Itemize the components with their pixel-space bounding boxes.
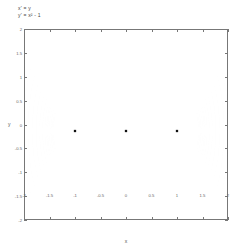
y-axis-tick-label: 1.5 <box>6 50 22 55</box>
x-axis-tick-label: 0.5 <box>149 193 155 198</box>
y-axis-tick <box>225 29 228 30</box>
y-axis-tick <box>24 53 27 54</box>
trajectory <box>47 136 205 182</box>
trajectory <box>40 64 213 127</box>
y-axis-tick <box>24 220 27 221</box>
trajectory <box>32 134 219 216</box>
y-axis-tick <box>24 125 27 126</box>
y-axis-tick <box>225 125 228 126</box>
trajectory <box>48 82 204 127</box>
x-axis-tick <box>228 29 229 32</box>
y-axis-tick-label: 2 <box>6 27 22 32</box>
trajectory <box>53 135 198 168</box>
trajectory <box>43 71 210 128</box>
trajectory <box>43 134 210 191</box>
x-axis-tick-label: -2 <box>22 193 26 198</box>
x-axis-tick <box>50 217 51 220</box>
trajectory <box>50 86 203 127</box>
trajectory <box>52 135 199 171</box>
y-axis-tick <box>24 77 27 78</box>
x-axis-tick <box>177 29 178 32</box>
y-axis-tick <box>225 101 228 102</box>
y-axis-tick-label: 1 <box>6 74 22 79</box>
y-axis-tick-label: 0 <box>6 122 22 127</box>
trajectory <box>50 136 203 177</box>
y-axis-tick <box>24 29 27 30</box>
x-axis-tick <box>203 29 204 32</box>
phase-portrait-figure: x' = y y' = x² - 1 x y -2-1.5-1-0.500.51… <box>0 0 251 251</box>
trajectory <box>24 29 228 71</box>
y-axis-tick <box>225 53 228 54</box>
x-axis-tick <box>203 217 204 220</box>
x-axis-tick-label: -1.5 <box>46 193 53 198</box>
trajectory <box>51 133 201 173</box>
x-axis-tick-label: 2 <box>227 193 229 198</box>
x-axis-tick <box>75 217 76 220</box>
y-axis-tick <box>225 148 228 149</box>
trajectory <box>45 137 207 186</box>
trajectory <box>52 92 199 128</box>
equation-line-2: y' = x² - 1 <box>18 12 41 19</box>
system-equations: x' = y y' = x² - 1 <box>18 5 41 19</box>
x-axis-tick <box>50 29 51 32</box>
plot-area <box>24 29 228 220</box>
y-axis-tick <box>24 148 27 149</box>
equilibrium-point-saddle <box>74 130 76 132</box>
y-axis-tick <box>225 220 228 221</box>
x-axis-tick <box>126 29 127 32</box>
x-axis-title: x <box>125 238 128 244</box>
x-axis-tick-label: -0.5 <box>97 193 104 198</box>
trajectory <box>24 147 228 233</box>
x-axis-tick <box>228 217 229 220</box>
x-axis-tick-label: 1 <box>176 193 178 198</box>
x-axis-tick <box>152 29 153 32</box>
y-axis-tick-label: -0.5 <box>6 146 22 151</box>
trajectory-curves <box>24 29 228 233</box>
trajectory <box>45 76 207 125</box>
x-axis-tick-label: 0 <box>125 193 127 198</box>
x-axis-tick-label: -1 <box>73 193 77 198</box>
trajectory <box>53 94 198 127</box>
y-axis-tick <box>24 172 27 173</box>
y-axis-tick-label: -1 <box>6 170 22 175</box>
y-axis-tick <box>225 172 228 173</box>
y-axis-tick-label: 0.5 <box>6 98 22 103</box>
trajectory <box>32 46 219 128</box>
x-axis-tick-label: 1.5 <box>200 193 206 198</box>
x-axis-tick <box>101 217 102 220</box>
trajectory <box>40 136 213 199</box>
x-axis-tick <box>101 29 102 32</box>
x-axis-tick <box>126 217 127 220</box>
x-axis-tick <box>152 217 153 220</box>
trajectory <box>28 34 224 123</box>
trajectory <box>48 135 204 180</box>
trajectory <box>24 29 228 115</box>
x-axis-tick <box>177 217 178 220</box>
y-axis-tick-label: -1.5 <box>6 194 22 199</box>
y-axis-tick <box>24 101 27 102</box>
y-axis-tick <box>225 77 228 78</box>
trajectory <box>28 138 224 227</box>
equilibrium-point-center <box>125 130 127 132</box>
x-axis-tick <box>75 29 76 32</box>
y-axis-tick-label: -2 <box>6 218 22 223</box>
trajectory <box>47 80 205 126</box>
trajectory <box>51 89 201 129</box>
equation-line-1: x' = y <box>18 5 41 12</box>
equilibrium-point-saddle <box>176 130 178 132</box>
